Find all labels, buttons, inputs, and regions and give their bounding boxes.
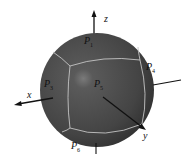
face-label-p1: P1: [84, 36, 93, 48]
z-axis-arrowhead-icon: [92, 10, 97, 17]
face-label-p5: P5: [94, 79, 103, 91]
z-axis-label: z: [104, 14, 108, 24]
face-label-p4: P4: [146, 62, 155, 74]
x-axis-label: x: [27, 90, 31, 100]
face-label-p6: P6: [71, 141, 80, 153]
y-axis-label: y: [143, 131, 147, 141]
x-axis-arrowhead-icon: [14, 101, 22, 106]
y-axis-negative: [153, 80, 181, 85]
face-label-p3: P3: [44, 79, 53, 91]
